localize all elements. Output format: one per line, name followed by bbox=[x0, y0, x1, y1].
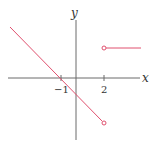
open-circle-upper bbox=[102, 46, 106, 50]
tick-label-neg1: −1 bbox=[54, 84, 69, 95]
tick-label-2: 2 bbox=[101, 84, 107, 95]
diagonal-segment bbox=[10, 27, 102, 121]
piecewise-graph: x y −1 2 bbox=[0, 0, 156, 144]
open-circle-lower bbox=[102, 121, 106, 125]
x-axis-label: x bbox=[142, 71, 149, 85]
y-axis-label: y bbox=[70, 6, 78, 20]
